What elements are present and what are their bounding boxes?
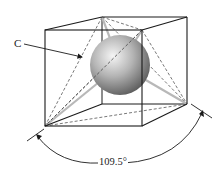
tetrahedral-carbon-diagram: C 109.5° <box>0 0 224 186</box>
atom-label: C <box>14 38 21 49</box>
angle-tick-left <box>27 129 44 141</box>
bond-angle-label: 109.5° <box>98 157 128 168</box>
carbon-atom-sphere <box>90 35 150 95</box>
atom-label-leader <box>24 44 82 57</box>
angle-tick-right <box>191 104 212 118</box>
arrow-left-icon <box>36 134 42 140</box>
